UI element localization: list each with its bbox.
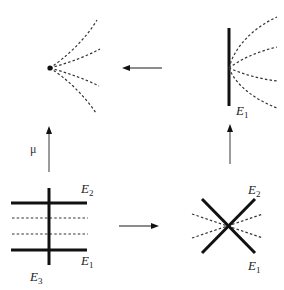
panel-top-left: [47, 20, 100, 113]
curve-2: [229, 47, 277, 68]
arrow-top: [122, 65, 162, 71]
panel-bottom-left: E2 E1 E3: [11, 181, 93, 286]
label-e1: E1: [247, 258, 260, 275]
arrow-bottom: [119, 223, 159, 229]
label-e1: E1: [235, 103, 248, 120]
curve-3: [229, 68, 277, 81]
arrow-left-mu: μ: [30, 126, 52, 172]
label-e2: E2: [80, 181, 93, 198]
label-e1: E1: [80, 253, 93, 270]
panel-top-right: E1: [229, 17, 277, 120]
label-e2: E2: [247, 182, 260, 199]
label-e3: E3: [29, 269, 43, 286]
arrow-right: [227, 124, 233, 164]
curve-1: [229, 17, 277, 68]
panel-bottom-right: E2 E1: [192, 182, 263, 275]
curve-2: [50, 49, 100, 68]
curve-4: [229, 68, 277, 108]
blown-down-point: [47, 65, 52, 70]
diagram-canvas: E1 μ E2 E1 E3: [0, 0, 284, 290]
label-mu: μ: [30, 142, 36, 156]
curve-3: [50, 68, 99, 86]
